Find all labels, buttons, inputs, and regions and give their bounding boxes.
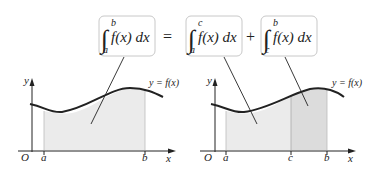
curve-label: y = f(x) (148, 77, 180, 89)
term1-integral-box: ∫ c a f(x) dx (186, 16, 242, 56)
x-axis-label: x (165, 152, 171, 164)
curve-label: y = f(x) (331, 77, 363, 89)
area-region-cb (291, 89, 327, 150)
origin-label: O (204, 151, 212, 163)
upper-limit: c (198, 17, 203, 28)
lower-limit: a (103, 44, 108, 55)
tick-label-b: b (142, 151, 148, 163)
upper-limit: b (111, 17, 116, 28)
integrand: f(x) dx (111, 29, 150, 46)
x-axis-label: x (347, 152, 353, 164)
y-axis-arrow-icon (213, 78, 218, 86)
tick-label-a: a (41, 151, 47, 163)
y-axis-label: y (206, 74, 212, 86)
lower-limit: a (190, 44, 195, 55)
area-region-ab (44, 89, 145, 150)
lower-limit: c (265, 44, 270, 55)
integrand: f(x) dx (198, 29, 237, 46)
tick-label-c: c (288, 151, 293, 163)
plus-sign: + (246, 28, 255, 45)
lhs-integral-box: ∫ b a f(x) dx (99, 16, 155, 56)
origin-label: O (21, 151, 29, 163)
tick-label-b: b (324, 151, 330, 163)
integral-additivity-diagram: ∫ b a f(x) dx = ∫ c a f(x) dx + ∫ b c f(… (0, 0, 385, 171)
integrand: f(x) dx (273, 29, 312, 46)
y-axis-arrow-icon (30, 78, 35, 86)
tick-label-a: a (223, 151, 229, 163)
left-graph: y x O a b y = f(x) (18, 57, 180, 164)
y-axis-label: y (23, 74, 29, 86)
equals-sign: = (163, 28, 172, 45)
term2-integral-box: ∫ b c f(x) dx (261, 16, 317, 56)
right-graph: y x O a c b y = f(x) (200, 57, 363, 164)
area-region-ac (226, 96, 291, 150)
upper-limit: b (273, 17, 278, 28)
